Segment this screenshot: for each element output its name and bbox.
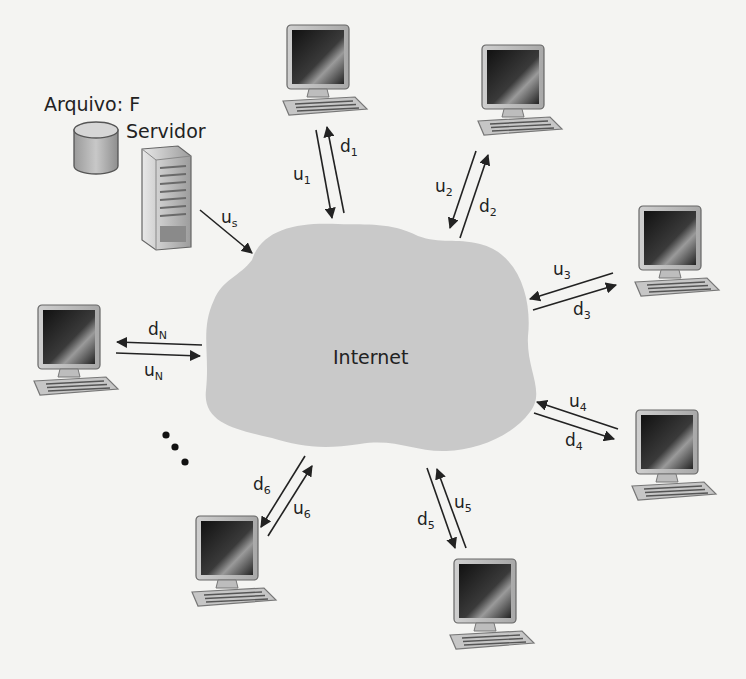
peer-N-upload-label: uN	[144, 362, 163, 382]
server-label: Servidor	[126, 122, 206, 141]
peer-6-computer-icon	[192, 516, 276, 606]
peer-N-download-arrow	[117, 342, 202, 345]
peer-6-download-label: d6	[253, 476, 271, 496]
peer-3-download-label: d3	[573, 301, 591, 321]
peer-4-upload-label: u4	[569, 393, 587, 413]
peer-3-computer-icon	[635, 206, 719, 296]
internet-label: Internet	[333, 348, 408, 367]
peer-5-computer-icon	[450, 559, 534, 649]
internet-cloud	[206, 224, 537, 451]
peer-5-download-label: d5	[417, 511, 435, 531]
peer-1-upload-label: u1	[293, 166, 311, 186]
peer-3-upload-arrow	[530, 273, 613, 299]
peer-5-upload-label: u5	[454, 494, 472, 514]
file-label: Arquivo: F	[44, 95, 140, 114]
peer-3-upload-label: u3	[553, 261, 571, 281]
peer-N-computer-icon	[34, 305, 118, 395]
peer-6-upload-label: u6	[293, 500, 311, 520]
peer-2-download-label: d2	[479, 198, 497, 218]
peer-2-upload-arrow	[450, 151, 476, 228]
server-upload-label: us	[221, 209, 238, 229]
peer-1-download-label: d1	[340, 138, 358, 158]
peer-2-upload-label: u2	[435, 178, 453, 198]
peer-4-computer-icon	[632, 410, 716, 500]
peer-N-upload-arrow	[116, 353, 200, 356]
peer-1-computer-icon	[283, 25, 367, 115]
file-storage-icon	[74, 122, 118, 174]
server-icon	[142, 146, 191, 250]
peer-N-download-label: dN	[148, 321, 167, 341]
peer-2-computer-icon	[478, 45, 562, 135]
p2p-distribution-diagram: Arquivo: F Servidor Internet us u1 d1 u2…	[0, 0, 746, 679]
more-peers-ellipsis	[162, 431, 188, 465]
peer-4-download-label: d4	[565, 432, 583, 452]
